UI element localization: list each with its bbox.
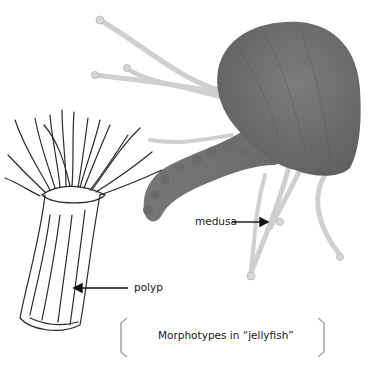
medusa-label: medusa — [195, 215, 237, 227]
polyp-label: polyp — [134, 281, 163, 293]
figure-caption: Morphotypes in “jellyfish” — [158, 329, 294, 341]
medusa-arrow — [232, 218, 268, 226]
polyp-arrow — [74, 284, 128, 292]
jellyfish-morphotypes-figure: medusa polyp Morphotypes in “jellyfish” — [0, 0, 374, 372]
illustration — [0, 0, 374, 372]
polyp-drawing — [5, 110, 162, 330]
